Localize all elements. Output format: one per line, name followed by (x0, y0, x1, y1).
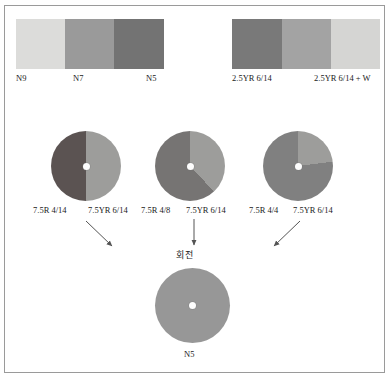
munsell-rotation-figure: N9 N7 N5 2.5YR 6/14 2.5YR 6/14 + W 7.5R … (0, 0, 390, 380)
disc-3-left-label: 7.5R 4/4 (249, 205, 278, 215)
swatch-n5 (114, 19, 164, 69)
disc-3-hub (295, 163, 302, 170)
neutral-gray-strip (16, 19, 164, 69)
result-disc-label: N5 (184, 349, 194, 359)
disc-1-hub (83, 163, 90, 170)
swatch-label-n7: N7 (73, 73, 83, 83)
result-disc-hub (189, 302, 196, 309)
swatch-label-2-5yr-6-14: 2.5YR 6/14 (232, 73, 272, 83)
swatch-n7 (65, 19, 114, 69)
swatch-label-2-5yr-6-14-plus-w: 2.5YR 6/14 + W (314, 73, 371, 83)
swatch-2-5yr-6-14 (232, 19, 282, 69)
disc-3-right-label: 7.5YR 6/14 (293, 205, 333, 215)
disc-2-left-label: 7.5R 4/8 (141, 205, 170, 215)
swatch-n9 (16, 19, 65, 69)
disc-2-hub (187, 163, 194, 170)
disc-1-left-label: 7.5R 4/14 (33, 205, 67, 215)
swatch-2-5yr-mid (282, 19, 331, 69)
chromatic-strip (232, 19, 380, 69)
swatch-label-n9: N9 (16, 73, 26, 83)
swatch-label-n5: N5 (146, 73, 156, 83)
disc-1-right-label: 7.5YR 6/14 (88, 205, 128, 215)
rotation-caption: 회전 (176, 248, 194, 261)
disc-2-right-label: 7.5YR 6/14 (186, 205, 226, 215)
swatch-2-5yr-6-14-plus-w (331, 19, 380, 69)
